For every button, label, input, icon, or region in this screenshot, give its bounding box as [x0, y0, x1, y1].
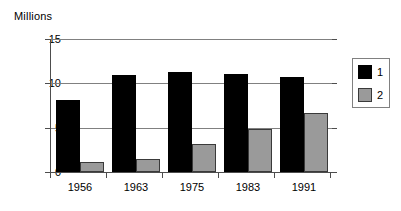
x-tick-1	[106, 172, 107, 178]
x-tick-3	[218, 172, 219, 178]
plot-area	[50, 39, 332, 172]
bar-series2-1956	[80, 162, 104, 172]
legend-swatch-series2	[358, 88, 372, 102]
bar-series2-1983	[248, 129, 272, 172]
bar-series1-1963	[112, 75, 136, 172]
x-axis-line	[49, 172, 333, 173]
legend-label-series2: 2	[377, 90, 383, 101]
chart-legend: 1 2	[352, 58, 390, 108]
y-tick-right-5	[332, 128, 337, 129]
x-tick-5	[330, 172, 331, 178]
bar-series1-1956	[56, 100, 80, 172]
chart-axis-title: Millions	[14, 10, 52, 22]
bar-series1-1991	[280, 77, 304, 172]
x-label-1975: 1975	[162, 181, 222, 193]
bar-group-1963	[112, 39, 160, 172]
bar-group-1956	[56, 39, 104, 172]
legend-item-series1: 1	[358, 65, 383, 79]
legend-item-series2: 2	[358, 88, 383, 102]
x-label-1991: 1991	[274, 181, 334, 193]
y-axis-line	[50, 39, 51, 172]
bar-series2-1975	[192, 144, 216, 172]
bar-series2-1963	[136, 159, 160, 172]
legend-label-series1: 1	[377, 67, 383, 78]
x-tick-2	[162, 172, 163, 178]
bar-group-1975	[168, 39, 216, 172]
bar-series1-1975	[168, 72, 192, 172]
bar-group-1991	[280, 39, 328, 172]
bar-series1-1983	[224, 74, 248, 172]
y-tick-right-15	[332, 39, 337, 40]
y-tick-right-10	[332, 83, 337, 84]
bar-chart: Millions 15 10 5 0	[0, 0, 401, 211]
legend-swatch-series1	[358, 65, 372, 79]
bar-group-1983	[224, 39, 272, 172]
x-tick-4	[274, 172, 275, 178]
x-label-1983: 1983	[218, 181, 278, 193]
x-tick-0	[50, 172, 51, 178]
bar-series2-1991	[304, 113, 328, 172]
x-label-1963: 1963	[106, 181, 166, 193]
x-label-1956: 1956	[50, 181, 110, 193]
